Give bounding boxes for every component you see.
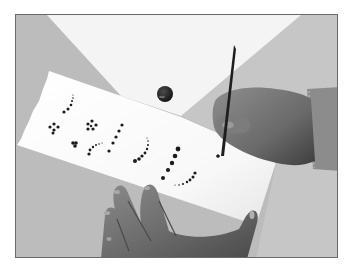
paint-dot <box>176 147 181 152</box>
paint-dot <box>189 179 192 182</box>
paint-dot <box>133 159 137 163</box>
paint-dot <box>87 152 90 155</box>
paint-dot <box>146 148 148 150</box>
paint-dot <box>89 149 92 152</box>
paint-dot <box>111 141 114 144</box>
paint-dot <box>92 146 94 148</box>
paint-dot <box>137 157 141 161</box>
thumbnail <box>222 122 234 129</box>
photo-scene <box>16 15 338 258</box>
paint-dot <box>86 122 89 125</box>
paint-dot <box>166 168 170 172</box>
paint-dot <box>72 97 74 99</box>
paint-dot <box>90 125 92 127</box>
paint-dot <box>170 161 174 165</box>
paint-dot <box>72 94 73 95</box>
paint-dot <box>67 108 70 111</box>
paint-dot <box>146 137 147 138</box>
fingernail-1 <box>114 190 120 194</box>
paint-dot <box>147 140 149 142</box>
paint-dot <box>107 149 110 152</box>
paint-dot <box>186 181 188 183</box>
brush-tip-dot <box>216 154 219 157</box>
paint-dot <box>114 135 117 138</box>
paint-dot <box>52 132 55 135</box>
paint-drop-highlight <box>159 96 165 98</box>
paint-dot <box>173 154 178 159</box>
paint-dot <box>62 110 65 113</box>
paint-dot <box>70 104 73 107</box>
paint-dot <box>95 144 97 146</box>
paint-dot <box>178 184 180 186</box>
paint-dot <box>182 183 184 185</box>
fingernail-4 <box>107 237 112 241</box>
paint-dot <box>73 144 77 148</box>
paint-dot <box>52 128 55 131</box>
paint-dot <box>98 143 100 145</box>
paint-dot <box>193 171 196 174</box>
paint-dot <box>86 127 89 130</box>
paint-dot <box>192 176 195 179</box>
paint-dot <box>94 123 97 126</box>
paint-dot <box>52 122 55 125</box>
paint-dot <box>120 123 123 126</box>
paint-dot <box>144 152 147 155</box>
paint-dot <box>161 176 165 180</box>
thumbnail-left-hand <box>250 211 255 219</box>
paint-dot <box>147 144 149 146</box>
paint-dot <box>71 100 73 102</box>
paint-dot <box>48 125 51 128</box>
paint-dot <box>91 127 94 130</box>
paint-dot <box>174 184 175 185</box>
paint-dot <box>90 119 93 122</box>
paint-drop <box>157 86 173 102</box>
fingernail-3 <box>104 211 110 215</box>
paint-dot <box>117 129 120 132</box>
paint-dot <box>56 125 59 128</box>
paint-dot <box>140 154 143 157</box>
fingernail-2 <box>144 186 150 190</box>
photo: Hands painting dot patterns on paper wit… <box>15 14 338 258</box>
paint-dot <box>101 142 102 143</box>
